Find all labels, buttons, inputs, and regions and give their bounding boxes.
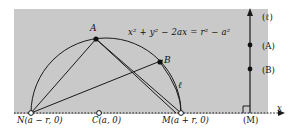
vline-point-B-marker: [248, 67, 253, 72]
point-B-marker: [157, 59, 162, 64]
arc-label-ell: ℓ: [178, 81, 182, 90]
vline-point-A-marker: [248, 43, 253, 48]
vline-label-A: (A): [262, 42, 275, 51]
figure-container: A B ℓ x² + y² − 2ax = r² − a² N(a − r, 0…: [0, 0, 289, 138]
chord-N-B: [31, 60, 163, 113]
x-axis-label: x: [277, 104, 282, 113]
vline-label-B: (B): [262, 66, 275, 75]
circle-equation-label: x² + y² − 2ax = r² − a²: [128, 28, 230, 37]
right-angle-marker: [243, 106, 250, 113]
vertical-line-arrowhead: [247, 8, 253, 16]
chord-A-M: [96, 39, 181, 113]
point-label-N: N(a − r, 0): [17, 116, 63, 125]
point-label-B: B: [164, 56, 171, 65]
chord-A-B: [96, 39, 176, 113]
point-A-marker: [93, 36, 98, 41]
point-label-M: M(a + r, 0): [162, 116, 209, 125]
vline-label-ell: (ℓ): [262, 13, 273, 22]
semicircle-arc: [31, 38, 181, 113]
point-label-A: A: [90, 24, 97, 33]
vline-label-M: (M): [243, 116, 258, 125]
point-label-C: C(a, 0): [92, 116, 121, 125]
